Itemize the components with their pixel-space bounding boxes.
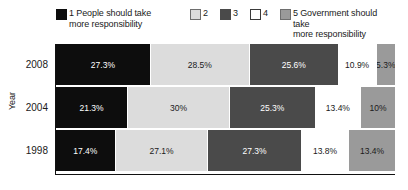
bar-row-2008: 200827.3%28.5%25.6%10.9%5.3% <box>56 44 395 85</box>
bar-segment-1998-2: 27.1% <box>116 130 209 171</box>
legend-swatch-4-icon <box>250 9 261 20</box>
bar-row-1998: 199817.4%27.1%27.3%13.8%13.4% <box>56 130 395 171</box>
bar-segment-2008-5: 5.3% <box>377 44 395 85</box>
legend-swatch-1-icon <box>56 9 67 20</box>
legend-label-2: 2 <box>203 8 208 19</box>
bar-segment-2008-2: 28.5% <box>151 44 250 85</box>
chart-legend: 1 People should take more responsibility… <box>56 8 396 40</box>
y-tick-label-1998: 1998 <box>26 130 56 171</box>
legend-swatch-3-icon <box>220 9 231 20</box>
bar-segment-2004-4: 13.4% <box>316 87 361 128</box>
bar-segment-2004-5: 10% <box>361 87 395 128</box>
chart-area: Year 200827.3%28.5%25.6%10.9%5.3%200421.… <box>0 44 408 180</box>
plot-region: 200827.3%28.5%25.6%10.9%5.3%200421.3%30%… <box>55 44 395 174</box>
bar-segment-2004-1: 21.3% <box>56 87 128 128</box>
legend-item-4: 4 <box>250 8 280 20</box>
bar-segment-1998-4: 13.8% <box>302 130 349 171</box>
y-tick-label-2004: 2004 <box>26 87 56 128</box>
bar-segment-1998-3: 27.3% <box>208 130 301 171</box>
bar-segment-2008-3: 25.6% <box>250 44 339 85</box>
y-axis-title: Year <box>7 77 17 125</box>
legend-label-5: 5 Government should take more responsibi… <box>293 8 396 40</box>
legend-item-2: 2 <box>190 8 220 20</box>
bar-segment-2008-1: 27.3% <box>56 44 151 85</box>
bar-segment-1998-1: 17.4% <box>56 130 116 171</box>
bar-segment-1998-5: 13.4% <box>349 130 395 171</box>
bar-segment-2004-2: 30% <box>128 87 230 128</box>
bar-row-2004: 200421.3%30%25.3%13.4%10% <box>56 87 395 128</box>
legend-label-3: 3 <box>233 8 238 19</box>
y-tick-label-2008: 2008 <box>26 44 56 85</box>
bar-segment-2008-4: 10.9% <box>339 44 377 85</box>
legend-item-5: 5 Government should take more responsibi… <box>280 8 396 40</box>
bar-segment-2004-3: 25.3% <box>230 87 316 128</box>
legend-item-3: 3 <box>220 8 250 20</box>
legend-swatch-5-icon <box>280 9 291 20</box>
legend-label-4: 4 <box>263 8 268 19</box>
x-axis-line <box>55 174 395 175</box>
legend-item-1: 1 People should take more responsibility <box>56 8 184 29</box>
legend-label-1: 1 People should take more responsibility <box>69 8 151 29</box>
legend-swatch-2-icon <box>190 9 201 20</box>
